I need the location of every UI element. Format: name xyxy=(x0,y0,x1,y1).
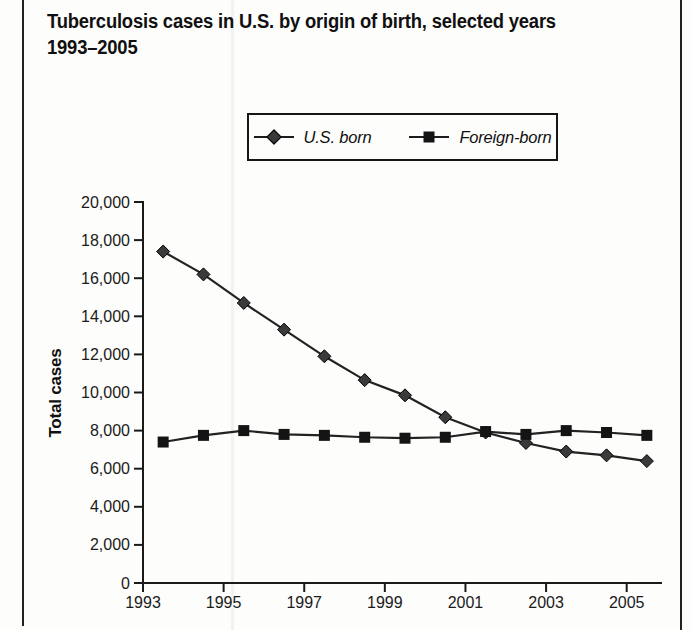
square-data-point xyxy=(561,425,572,436)
y-tick-label: 14,000 xyxy=(81,308,130,325)
line-chart: 02,0004,0006,0008,00010,00012,00014,0001… xyxy=(0,0,692,630)
square-data-point xyxy=(480,426,491,437)
y-tick-label: 12,000 xyxy=(81,346,130,363)
y-axis-ticks: 02,0004,0006,0008,00010,00012,00014,0001… xyxy=(81,194,143,592)
y-tick-label: 8,000 xyxy=(90,422,130,439)
x-tick-label: 1995 xyxy=(206,594,242,611)
square-data-point xyxy=(641,430,652,441)
diamond-data-point xyxy=(318,350,331,363)
square-data-point xyxy=(319,430,330,441)
diamond-data-point xyxy=(439,411,452,424)
y-tick-label: 20,000 xyxy=(81,194,130,211)
x-tick-label: 2003 xyxy=(528,594,564,611)
diamond-data-point xyxy=(560,445,573,458)
series-foreign-born xyxy=(158,425,653,447)
square-data-point xyxy=(158,437,169,448)
x-tick-label: 1993 xyxy=(125,594,161,611)
y-tick-label: 10,000 xyxy=(81,384,130,401)
x-tick-label: 1999 xyxy=(367,594,403,611)
y-tick-label: 0 xyxy=(121,575,130,592)
square-data-point xyxy=(601,427,612,438)
square-data-point xyxy=(359,432,370,443)
square-data-point xyxy=(440,432,451,443)
x-axis-ticks: 1993199519971999200120032005 xyxy=(125,583,644,611)
y-tick-label: 2,000 xyxy=(90,536,130,553)
y-tick-label: 6,000 xyxy=(90,460,130,477)
square-data-point xyxy=(198,430,209,441)
figure-page: { "title": { "line1": "Tuberculosis case… xyxy=(0,0,692,630)
x-tick-label: 2005 xyxy=(609,594,645,611)
square-data-point xyxy=(279,429,290,440)
square-data-point xyxy=(520,429,531,440)
diamond-data-point xyxy=(157,245,170,258)
diamond-data-point xyxy=(640,455,653,468)
diamond-data-point xyxy=(600,449,613,462)
diamond-data-point xyxy=(399,389,412,402)
y-tick-label: 4,000 xyxy=(90,498,130,515)
square-data-point xyxy=(400,433,411,444)
y-tick-label: 18,000 xyxy=(81,232,130,249)
square-data-point xyxy=(238,425,249,436)
x-tick-label: 2001 xyxy=(448,594,484,611)
diamond-data-point xyxy=(358,374,371,387)
x-tick-label: 1997 xyxy=(286,594,322,611)
y-tick-label: 16,000 xyxy=(81,270,130,287)
diamond-data-point xyxy=(278,323,291,336)
